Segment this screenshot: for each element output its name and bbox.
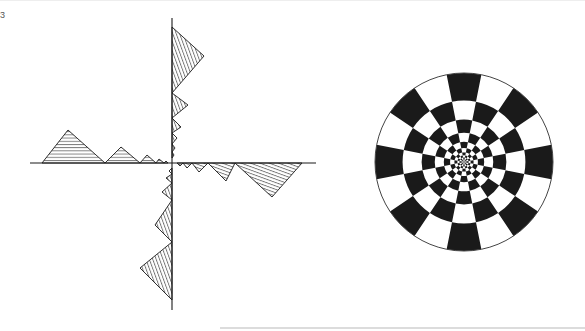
checker-cell [447,170,456,179]
checker-cell [465,156,468,159]
checker-cell [524,145,553,180]
checker-cell [481,166,493,178]
checker-cell [375,145,404,180]
checker-cell [447,222,482,251]
checker-cell [498,196,538,236]
checker-cell [468,158,471,161]
checker-cell [422,154,436,171]
checker-cell [499,128,524,154]
checker-cell [468,154,472,158]
checker-cell [456,154,460,158]
hatched-triangle [172,118,181,133]
checker-cell [456,166,460,170]
hatched-triangle [140,242,172,300]
checker-cell [465,166,468,169]
hatched-triangle [42,130,105,163]
checker-cell [404,128,429,154]
figure-canvas [0,0,585,331]
checker-cell [472,154,478,160]
hatched-triangle [166,174,172,183]
checker-cell [450,164,456,170]
hatched-triangle [162,183,172,200]
hatched-triangle [192,163,208,172]
checker-cell [404,170,429,196]
hatched-triangle [105,147,140,163]
checker-cell [466,148,472,154]
checker-cell [460,142,468,149]
hatched-triangle [172,93,188,118]
checker-cell [458,163,461,166]
checker-cell [481,146,493,158]
checker-cell [493,154,507,171]
checker-cell [462,169,466,172]
checker-cell [447,73,482,102]
checker-cell [472,170,481,179]
checker-cell [456,120,473,134]
checker-cell [478,158,485,166]
hatched-triangle [156,159,164,163]
checker-cell [429,127,448,146]
checker-cell [448,133,460,145]
polar-checkerboard-disc [375,73,553,251]
sawtooth-axes-diagram [30,18,316,310]
checker-cell [460,176,468,183]
checker-cell [435,166,447,178]
checker-cell [460,156,463,159]
checker-cell [499,170,524,196]
checker-cell [454,160,457,164]
checker-cell [448,179,460,191]
checker-cell [468,179,480,191]
checker-cell [456,191,473,205]
checker-cell [472,197,498,222]
checker-cell [435,146,447,158]
checker-cell [468,166,472,170]
checker-cell [447,145,456,154]
checker-cell [456,170,462,176]
bottom-border [220,327,585,329]
checker-cell [472,102,498,127]
checker-cell [498,88,538,128]
hatched-triangle [172,133,177,144]
checker-cell [471,160,474,164]
hatched-triangle [172,27,204,93]
checker-cell [429,178,448,197]
checker-cell [430,197,456,222]
checker-cell [460,166,463,169]
checker-cell [458,158,461,161]
checker-cell [468,163,471,166]
hatched-triangle [140,155,156,163]
checker-cell [472,145,481,154]
checker-cell [390,88,430,128]
checker-cell [390,196,430,236]
hatched-triangle [208,163,235,181]
checker-cell [480,178,499,197]
checker-cell [472,164,478,170]
checker-cell [430,102,456,127]
hatched-triangle [155,200,172,242]
checker-cell [444,158,451,166]
hatched-triangle [183,163,192,168]
checker-cell [466,170,472,176]
checker-cell [450,154,456,160]
hatched-triangle [235,163,302,197]
checker-cell [456,148,462,154]
checker-cell [468,133,480,145]
checker-cell [480,127,499,146]
checker-cell [462,152,466,155]
